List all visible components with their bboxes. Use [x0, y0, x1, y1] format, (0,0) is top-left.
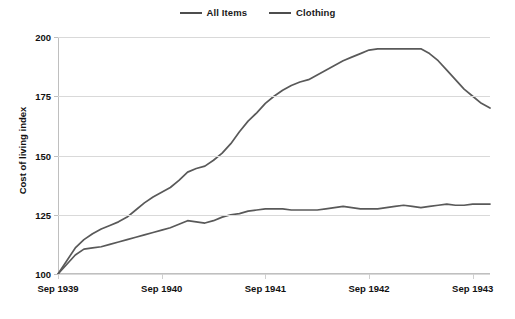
y-tick-label-175: 175 [35, 91, 51, 102]
x-tick-label-sep-1941: Sep 1941 [245, 283, 286, 294]
y-tick-mark [54, 156, 58, 157]
x-tick-label-sep-1940: Sep 1940 [141, 283, 182, 294]
y-tick-label-125: 125 [35, 209, 51, 220]
legend-item-clothing[interactable]: Clothing [269, 8, 335, 18]
x-tick-mark [369, 274, 370, 279]
gridline-y-100 [58, 274, 490, 275]
x-tick-label-sep-1942: Sep 1942 [348, 283, 389, 294]
x-tick-mark [473, 274, 474, 279]
gridline-y-150 [58, 156, 490, 157]
gridline-y-175 [58, 96, 490, 97]
legend-label-clothing: Clothing [296, 8, 335, 18]
x-tick-label-sep-1939: Sep 1939 [37, 283, 78, 294]
y-tick-label-150: 150 [35, 150, 51, 161]
legend-line-swatch-icon [180, 12, 202, 14]
x-tick-label-sep-1943: Sep 1943 [452, 283, 493, 294]
y-tick-label-200: 200 [35, 32, 51, 43]
legend-label-all-items: All Items [207, 8, 248, 18]
gridline-y-125 [58, 215, 490, 216]
y-tick-mark [54, 96, 58, 97]
y-tick-label-100: 100 [35, 269, 51, 280]
chart-legend: All Items Clothing [0, 8, 515, 18]
plot-area: 100125150175200Sep 1939Sep 1940Sep 1941S… [58, 37, 490, 274]
y-tick-mark [54, 37, 58, 38]
gridline-y-200 [58, 37, 490, 38]
x-tick-mark [265, 274, 266, 279]
x-tick-mark [58, 274, 59, 279]
y-tick-mark [54, 215, 58, 216]
x-tick-mark [162, 274, 163, 279]
legend-item-all-items[interactable]: All Items [180, 8, 248, 18]
y-axis-title: Cost of living index [17, 81, 28, 221]
legend-line-swatch-icon [269, 12, 291, 14]
line-chart: All Items Clothing Cost of living index … [0, 0, 515, 319]
